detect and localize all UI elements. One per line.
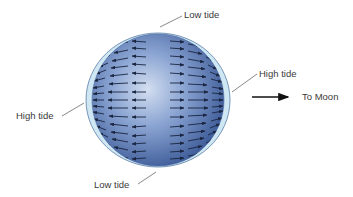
label-to-moon: To Moon: [302, 91, 338, 102]
label-high-tide-left: High tide: [16, 110, 54, 121]
label-low-tide-top: Low tide: [184, 9, 219, 20]
tidal-force-diagram: [0, 0, 353, 197]
leader-line-left: [62, 103, 84, 116]
label-high-tide-right: High tide: [259, 68, 297, 79]
leader-line-top: [160, 16, 182, 27]
label-low-tide-bottom: Low tide: [94, 179, 129, 190]
leader-line-right: [232, 74, 257, 92]
leader-line-bottom: [138, 172, 156, 184]
